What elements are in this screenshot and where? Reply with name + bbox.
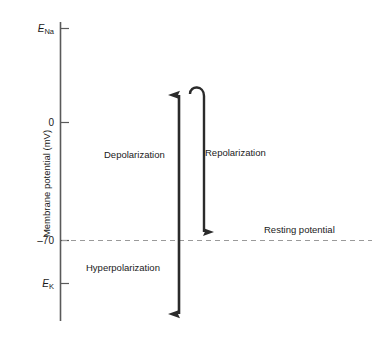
action-potential-diagram: Membrane potential (mV) ENa 0 –70 EK Dep… [0,0,378,337]
y-tick-label-ena: ENa [0,23,54,34]
resting-potential-label: Resting potential [264,224,335,235]
diagram-graphics [0,0,378,337]
y-tick-label-ek: EK [0,278,54,289]
repolarization-label: Repolarization [205,147,266,158]
repolarization-arrow-path [190,87,204,232]
hyperpolarization-label: Hyperpolarization [86,262,160,273]
depolarization-label: Depolarization [104,149,165,160]
y-tick-label-zero: 0 [0,117,54,128]
y-tick-label-minus70: –70 [0,235,54,246]
